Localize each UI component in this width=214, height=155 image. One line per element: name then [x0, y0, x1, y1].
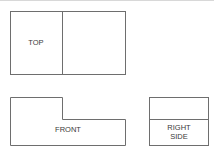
top-view: TOP [11, 12, 126, 75]
right-side-label-line1: RIGHT [167, 123, 191, 132]
right-side-view: RIGHT SIDE [150, 98, 209, 146]
right-side-label-line2: SIDE [170, 132, 188, 141]
front-view: FRONT [11, 98, 126, 146]
front-view-label: FRONT [55, 125, 81, 134]
front-view-outline [11, 98, 126, 146]
top-view-label: TOP [28, 38, 43, 47]
orthographic-diagram: TOP FRONT RIGHT SIDE [0, 0, 214, 155]
